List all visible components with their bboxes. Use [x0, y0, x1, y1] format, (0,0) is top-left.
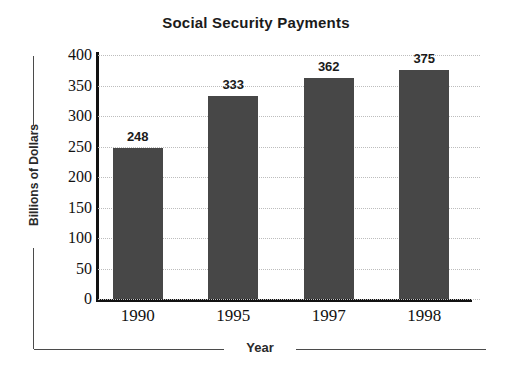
x-axis-title: Year [220, 340, 300, 355]
y-axis-tick-label: 50 [46, 261, 92, 277]
bar [208, 96, 258, 299]
y-axis-tick-labels: 400350300250200150100500 [40, 55, 92, 299]
plot-area: 248333362375 [98, 55, 480, 299]
bar [304, 78, 354, 299]
chart-title: Social Security Payments [0, 14, 512, 31]
x-axis-tick-label: 1998 [384, 306, 464, 326]
y-axis-tick-label: 200 [46, 169, 92, 185]
x-axis-title-rule-left [34, 349, 224, 350]
y-axis-tick-label: 0 [46, 291, 92, 307]
y-axis-tick-label: 350 [46, 78, 92, 94]
y-axis-tick-label: 300 [46, 108, 92, 124]
y-axis-tick-label: 250 [46, 139, 92, 155]
gridline [98, 299, 480, 300]
y-axis-tick-label: 100 [46, 230, 92, 246]
bar [113, 148, 163, 299]
bar-value-label: 248 [106, 129, 170, 144]
x-axis-tick-label: 1990 [98, 306, 178, 326]
bar-value-label: 375 [392, 51, 456, 66]
y-axis-tick-label: 150 [46, 200, 92, 216]
bar-value-label: 333 [201, 77, 265, 92]
chart-page: Social Security Payments Billions of Dol… [0, 0, 512, 370]
x-axis-tick-label: 1997 [289, 306, 369, 326]
y-axis-tick-label: 400 [46, 47, 92, 63]
x-axis-title-rule-right [296, 349, 486, 350]
x-axis-title-group: Year [34, 340, 486, 358]
bar [399, 70, 449, 299]
y-axis-title: Billions of Dollars [27, 105, 41, 245]
bar-value-label: 362 [297, 59, 361, 74]
x-axis-tick-label: 1995 [193, 306, 273, 326]
